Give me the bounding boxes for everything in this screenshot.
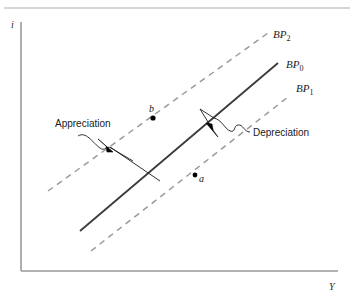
bp-curve-chart: i Y BP2 BP0 BP1 b a (0, 0, 354, 302)
y-axis-label: i (11, 19, 14, 30)
curve-bp2-label-sub: 2 (286, 34, 290, 43)
curve-bp1-label: BP1 (296, 82, 313, 97)
curve-bp2-group: BP2 (48, 28, 290, 191)
curve-bp1-line (91, 97, 288, 251)
x-axis-label: Y (329, 281, 336, 292)
curve-bp0-label-base: BP (286, 58, 300, 70)
curve-bp0-label-sub: 0 (299, 64, 303, 73)
point-a-label: a (199, 173, 204, 184)
depreciation-label: Depreciation (253, 127, 309, 138)
curve-bp1-label-base: BP (296, 82, 310, 94)
depreciation-arrow-shaft (200, 109, 214, 118)
point-b-marker (150, 115, 155, 120)
annotation-appreciation-group: Appreciation (55, 118, 160, 181)
depreciation-leader-line (214, 118, 230, 131)
appreciation-label: Appreciation (55, 118, 111, 129)
appreciation-arrow-shaft (110, 147, 160, 181)
curve-bp2-line (48, 33, 268, 191)
figure-container: i Y BP2 BP0 BP1 b a (0, 0, 354, 302)
curve-bp0-label: BP0 (286, 58, 303, 73)
point-a-group: a (193, 173, 204, 184)
annotation-depreciation-group: Depreciation (200, 109, 309, 138)
curve-bp2-label-base: BP (273, 28, 287, 40)
curve-bp2-label: BP2 (273, 28, 290, 43)
point-a-marker (193, 173, 198, 178)
curve-bp1-label-sub: 1 (309, 88, 313, 97)
point-b-label: b (149, 103, 154, 114)
curve-bp1-group: BP1 (91, 82, 313, 251)
depreciation-arrowhead-icon (206, 123, 218, 137)
